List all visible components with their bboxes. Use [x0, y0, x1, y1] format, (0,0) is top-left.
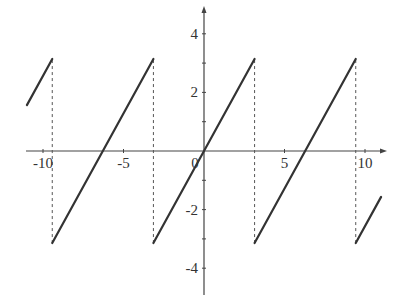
sawtooth-segment [27, 59, 52, 105]
x-axis-arrow-icon [380, 149, 387, 154]
y-tick-label: -2 [186, 202, 199, 218]
x-tick-label: 10 [358, 155, 373, 171]
y-tick-label: 4 [191, 26, 199, 42]
x-tick-label: -10 [33, 155, 53, 171]
x-tick-label: 0 [191, 155, 199, 171]
y-tick-label: 2 [191, 84, 199, 100]
x-tick-label: 5 [281, 155, 289, 171]
y-tick-label: -4 [186, 260, 199, 276]
x-tick-label: -5 [117, 155, 130, 171]
sawtooth-segment [356, 197, 381, 243]
sawtooth-chart: -10-50510-4-224 [0, 0, 405, 302]
axes [26, 6, 387, 295]
y-axis-arrow-icon [202, 6, 207, 13]
